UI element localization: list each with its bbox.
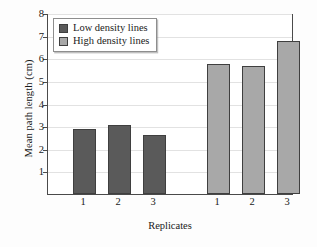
y-tick-label: 3 <box>39 122 44 133</box>
y-tick-label: 2 <box>39 145 44 156</box>
bar <box>277 41 300 194</box>
legend-item: Low density lines <box>59 22 149 35</box>
legend-item: High density lines <box>59 35 149 48</box>
x-axis-tick-labels: 123123 <box>47 197 293 213</box>
y-tick-label: 6 <box>39 54 44 65</box>
y-axis-title: Mean path length (cm) <box>23 24 34 194</box>
x-tick-label: 2 <box>249 197 254 208</box>
bar-chart-figure: Mean path length (cm) 12345678 123123 Re… <box>0 0 317 247</box>
x-tick-label: 2 <box>115 197 120 208</box>
legend-swatch-icon <box>59 24 68 33</box>
y-tick-label: 5 <box>39 77 44 88</box>
x-tick-label: 3 <box>150 197 155 208</box>
bar <box>73 129 96 194</box>
bar <box>108 125 131 194</box>
x-tick-label: 1 <box>80 197 85 208</box>
legend-item-label: Low density lines <box>73 23 148 34</box>
y-tick-label: 1 <box>39 167 44 178</box>
bar <box>143 135 166 194</box>
y-tick-label: 8 <box>39 9 44 20</box>
x-tick-label: 3 <box>284 197 289 208</box>
x-tick-label: 1 <box>214 197 219 208</box>
chart-legend: Low density lines High density lines <box>53 18 157 52</box>
y-tick-label: 4 <box>39 99 44 110</box>
y-tick-label: 7 <box>39 31 44 42</box>
bar <box>207 64 230 194</box>
legend-item-label: High density lines <box>73 36 149 47</box>
legend-swatch-icon <box>59 37 68 46</box>
bar <box>242 66 265 194</box>
x-axis-title: Replicates <box>47 220 293 231</box>
